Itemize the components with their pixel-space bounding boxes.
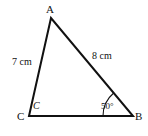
angle-measure-label-b: 50° bbox=[101, 102, 114, 111]
vertex-label-b: B bbox=[135, 111, 142, 122]
side-length-label-ca: 7 cm bbox=[12, 57, 32, 67]
triangle-outline bbox=[29, 18, 133, 116]
interior-angle-label-c: C bbox=[33, 101, 40, 111]
vertex-label-a: A bbox=[46, 4, 54, 15]
side-length-label-ab: 8 cm bbox=[92, 51, 112, 61]
vertex-label-c: C bbox=[17, 111, 24, 122]
